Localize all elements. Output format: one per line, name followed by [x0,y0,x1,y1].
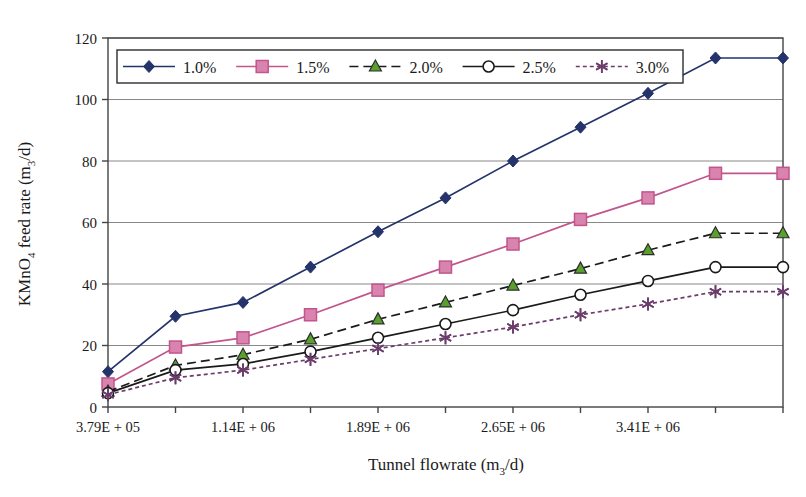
x-tick-label: 3.41E + 06 [616,419,680,435]
legend-label: 2.5% [523,59,556,76]
data-point-square [710,167,722,179]
data-point-circle [483,61,494,72]
x-tick-label: 1.14E + 06 [211,419,275,435]
y-tick-label: 40 [82,277,97,293]
data-point-square [256,61,268,73]
data-point-square [777,167,789,179]
y-tick-label: 100 [75,92,98,108]
data-point-square [440,261,452,273]
legend-label: 1.0% [183,59,216,76]
y-tick-label: 60 [82,215,97,231]
chart-legend: 1.0%1.5%2.0%2.5%3.0% [117,50,683,83]
data-point-circle [508,305,519,316]
chart-figure: 3.79E + 051.14E + 061.89E + 062.65E + 06… [0,0,806,497]
data-point-square [575,213,587,225]
x-axis-title-end: /d) [505,455,524,474]
y-axis-title: KMnO4 feed rate (m3/d) [15,142,37,306]
x-axis-title-main: Tunnel flowrate (m [368,455,500,474]
data-point-circle [440,318,451,329]
y-axis-title-mid: feed rate (m [15,166,34,252]
y-tick-label: 20 [82,338,97,354]
x-tick-label: 1.89E + 06 [346,419,410,435]
y-tick-label: 120 [75,31,98,47]
data-point-circle [710,262,721,273]
data-point-square [305,309,317,321]
data-point-circle [575,289,586,300]
legend-label: 2.0% [409,59,442,76]
data-point-square [507,238,519,250]
y-axis-title-main: KMnO [15,258,34,306]
y-axis-title-end: /d) [15,142,34,161]
data-point-square [642,192,654,204]
data-point-circle [373,332,384,343]
svg-text:KMnO4 feed rate (m3/d): KMnO4 feed rate (m3/d) [15,142,37,306]
line-chart: 3.79E + 051.14E + 061.89E + 062.65E + 06… [0,0,806,497]
data-point-circle [643,275,654,286]
x-tick-label: 3.79E + 05 [76,419,140,435]
data-point-square [170,341,182,353]
y-tick-label: 0 [90,400,98,416]
data-point-square [372,284,384,296]
legend-label: 1.5% [296,59,329,76]
legend-label: 3.0% [636,59,669,76]
data-point-square [237,332,249,344]
y-tick-label: 80 [82,154,97,170]
data-point-circle [778,262,789,273]
x-tick-label: 2.65E + 06 [481,419,545,435]
